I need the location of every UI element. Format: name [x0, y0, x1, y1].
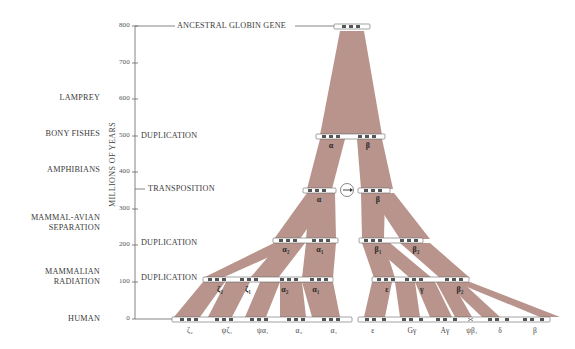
event-duplication-100: DUPLICATION — [141, 273, 197, 282]
gene-alpha-500: α — [319, 141, 343, 150]
branches — [174, 31, 560, 317]
human-gene-psi-beta1: ψβ₁ — [457, 326, 487, 335]
gene-zeta2-100: ζ₂ — [208, 285, 232, 294]
human-gene-psi-alpha1: ψα₁ — [248, 326, 278, 335]
gene-alpha2-200: α₂ — [274, 245, 298, 254]
globin-evolution-diagram: 800 700 600 500 400 300 200 100 0 MILLIO… — [0, 0, 575, 349]
event-duplication-500: DUPLICATION — [141, 131, 197, 140]
gene-alpha-350: α — [307, 195, 331, 204]
tick-800: 800 — [108, 21, 130, 29]
event-transposition: TRANSPOSITION — [148, 184, 215, 193]
human-gene-alpha2: α₂ — [284, 326, 314, 335]
gene-beta2-100: β₂ — [448, 285, 472, 294]
human-gene-psi-zeta1: ψζ₁ — [212, 326, 242, 335]
gene-gamma-100: γ — [410, 285, 434, 294]
human-gene-delta: δ — [485, 326, 515, 335]
gene-beta-350: β — [366, 195, 390, 204]
label-mammal-avian-1: MAMMAL-AVIAN — [0, 213, 100, 223]
label-human: HUMAN — [0, 314, 100, 324]
human-gene-g-gamma: Gγ — [397, 326, 427, 335]
label-lamprey: LAMPREY — [0, 93, 100, 103]
label-mammalian-2: RADIATION — [0, 277, 100, 287]
event-ancestral: ANCESTRAL GLOBIN GENE — [177, 21, 286, 30]
gene-zeta1-100: ζ₁ — [236, 285, 260, 294]
label-mammalian-1: MAMMALIAN — [0, 267, 100, 277]
human-gene-alpha1: α₁ — [319, 326, 349, 335]
transposition-arrow-icon — [341, 184, 354, 197]
tick-0: 0 — [108, 314, 130, 322]
gene-beta2-200: β₂ — [404, 245, 428, 254]
tick-700: 700 — [108, 58, 130, 66]
tick-200: 200 — [108, 240, 130, 248]
gene-epsilon-100: ε — [375, 285, 399, 294]
tick-600: 600 — [108, 94, 130, 102]
gene-beta1-200: β₁ — [366, 245, 390, 254]
label-mammal-avian-2: SEPARATION — [0, 223, 100, 233]
gene-beta-500: β — [356, 141, 380, 150]
label-amphibians: AMPHIBIANS — [0, 165, 100, 175]
axis-title: MILLIONS OF YEARS — [108, 110, 117, 220]
gene-alpha1-200: α₁ — [308, 245, 332, 254]
event-duplication-200: DUPLICATION — [141, 238, 197, 247]
tick-100: 100 — [108, 277, 130, 285]
gene-alpha2-100: α₂ — [273, 285, 297, 294]
human-gene-epsilon: ε — [358, 326, 388, 335]
human-gene-zeta2: ζ₂ — [175, 326, 205, 335]
human-gene-a-gamma: Aγ — [430, 326, 460, 335]
label-bony-fishes: BONY FISHES — [0, 129, 100, 139]
gene-alpha1-100: α₁ — [304, 285, 328, 294]
human-gene-beta: β — [520, 326, 550, 335]
